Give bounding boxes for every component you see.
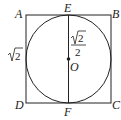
geometry-diagram: A B C D E F O 2 2 2 (0, 0, 121, 120)
svg-text:2: 2 (78, 32, 84, 44)
side-length-label: 2 (8, 48, 23, 62)
svg-text:2: 2 (75, 46, 81, 58)
label-d: D (14, 98, 24, 112)
label-a: A (14, 7, 23, 21)
svg-text:2: 2 (15, 50, 21, 62)
label-e: E (63, 1, 72, 15)
label-b: B (112, 7, 120, 21)
label-f: F (63, 105, 72, 119)
label-o: O (70, 60, 79, 74)
radius-label: 2 2 (71, 31, 86, 58)
label-c: C (112, 98, 121, 112)
